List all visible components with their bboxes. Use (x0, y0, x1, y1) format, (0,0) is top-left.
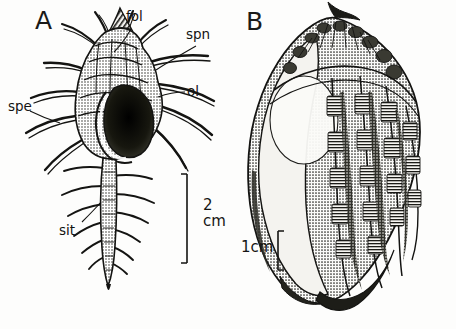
shell-a-illustration (0, 0, 228, 329)
shell-b-illustration (228, 0, 456, 329)
leader-sit (82, 202, 101, 222)
annotation-spe: spe (8, 100, 32, 114)
figure-canvas: A (0, 0, 456, 329)
annotation-fol: fol (126, 10, 143, 24)
panel-a-label: A (35, 8, 52, 33)
annotation-ol: ol (187, 85, 199, 99)
leader-fol (114, 29, 131, 52)
scale-unit-cm: cm (203, 212, 226, 230)
scale-bar-1cm (228, 0, 456, 329)
scale-bar-2cm-label: 2 cm (203, 198, 226, 230)
scale-bar-2cm (0, 0, 228, 329)
panel-a-leader-lines (0, 0, 228, 329)
leader-spn (156, 46, 196, 70)
panel-b-label: B (246, 9, 263, 34)
leader-spe (30, 111, 60, 123)
scale-bar-1cm-label: 1cm (241, 240, 273, 256)
annotation-spn: spn (186, 28, 210, 42)
panel-a: A (0, 0, 228, 329)
panel-b: B (228, 0, 456, 329)
annotation-sit: sit (59, 224, 75, 238)
leader-ol (158, 92, 185, 97)
